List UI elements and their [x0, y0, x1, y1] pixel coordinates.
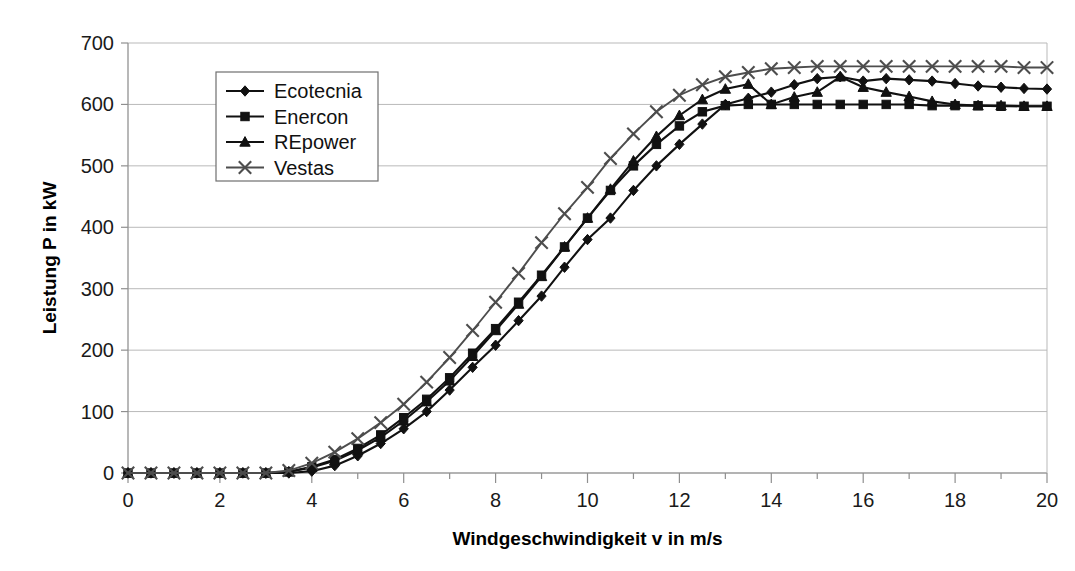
- marker-square: [813, 100, 821, 108]
- marker-square: [652, 140, 660, 148]
- marker-square: [882, 100, 890, 108]
- y-tick-label-0: 0: [103, 462, 114, 484]
- marker-diamond: [882, 73, 891, 83]
- x-tick-label-14: 14: [760, 489, 782, 511]
- marker-cross: [352, 432, 364, 444]
- marker-cross: [398, 398, 410, 410]
- marker-triangle: [674, 110, 684, 120]
- marker-cross: [466, 324, 478, 336]
- marker-triangle: [743, 79, 753, 89]
- y-tick-label-500: 500: [81, 155, 114, 177]
- x-tick-label-12: 12: [668, 489, 690, 511]
- marker-diamond: [1019, 83, 1028, 93]
- marker-cross: [581, 181, 593, 193]
- legend-label-repower: REpower: [274, 131, 357, 153]
- marker-cross: [420, 376, 432, 388]
- marker-square: [744, 100, 752, 108]
- legend: EcotecniaEnerconREpowerVestas: [216, 72, 378, 181]
- x-tick-label-0: 0: [122, 489, 133, 511]
- legend-label-ecotecnia: Ecotecnia: [274, 80, 363, 102]
- marker-square: [698, 108, 706, 116]
- x-axis: 02468101214161820: [122, 473, 1058, 511]
- x-tick-label-16: 16: [852, 489, 874, 511]
- marker-diamond: [767, 87, 776, 97]
- y-tick-label-200: 200: [81, 339, 114, 361]
- marker-square: [859, 100, 867, 108]
- x-tick-label-4: 4: [306, 489, 317, 511]
- x-axis-title: Windgeschwindigkeit v in m/s: [452, 528, 722, 549]
- marker-square: [675, 122, 683, 130]
- y-tick-label-100: 100: [81, 401, 114, 423]
- x-tick-label-18: 18: [944, 489, 966, 511]
- marker-cross: [627, 128, 639, 140]
- marker-cross: [535, 236, 547, 248]
- marker-triangle: [812, 87, 822, 97]
- marker-diamond: [1042, 84, 1051, 94]
- marker-diamond: [790, 80, 799, 90]
- x-tick-label-6: 6: [398, 489, 409, 511]
- y-tick-label-300: 300: [81, 278, 114, 300]
- marker-cross: [673, 89, 685, 101]
- marker-square: [721, 101, 729, 109]
- marker-diamond: [951, 78, 960, 88]
- marker-square: [905, 100, 913, 108]
- x-tick-label-10: 10: [576, 489, 598, 511]
- marker-cross: [512, 267, 524, 279]
- power-curve-chart: 010020030040050060070002468101214161820W…: [0, 0, 1075, 571]
- marker-diamond: [928, 76, 937, 86]
- marker-diamond: [813, 73, 822, 83]
- y-axis: 0100200300400500600700: [81, 32, 128, 484]
- marker-cross: [375, 416, 387, 428]
- legend-label-vestas: Vestas: [274, 157, 334, 179]
- marker-diamond: [905, 75, 914, 85]
- chart-canvas: 010020030040050060070002468101214161820W…: [0, 0, 1075, 571]
- x-tick-label-20: 20: [1036, 489, 1058, 511]
- y-axis-title: Leistung P in kW: [39, 182, 60, 335]
- marker-cross: [558, 208, 570, 220]
- axis-titles: Windgeschwindigkeit v in m/sLeistung P i…: [39, 182, 723, 549]
- marker-cross: [604, 152, 616, 164]
- marker-cross: [696, 79, 708, 91]
- x-tick-label-2: 2: [214, 489, 225, 511]
- legend-label-enercon: Enercon: [274, 106, 349, 128]
- marker-diamond: [973, 81, 982, 91]
- marker-square: [241, 112, 249, 120]
- y-tick-label-700: 700: [81, 32, 114, 54]
- y-tick-label-600: 600: [81, 93, 114, 115]
- x-tick-label-8: 8: [490, 489, 501, 511]
- marker-diamond: [996, 82, 1005, 92]
- marker-square: [836, 100, 844, 108]
- marker-cross: [650, 106, 662, 118]
- y-tick-label-400: 400: [81, 216, 114, 238]
- marker-cross: [489, 296, 501, 308]
- marker-cross: [443, 351, 455, 363]
